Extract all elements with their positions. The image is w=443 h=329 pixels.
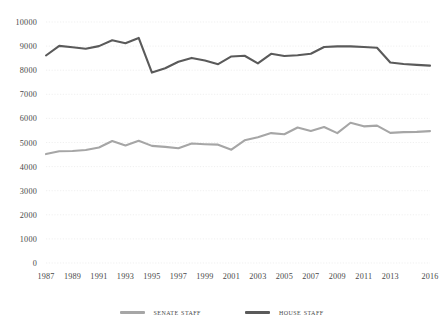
legend-label-house-staff: House Staff [279, 308, 324, 317]
y-tick-label: 9000 [20, 42, 37, 51]
x-tick-label: 2007 [302, 272, 319, 281]
x-tick-label: 1987 [37, 272, 54, 281]
legend-item-senate-staff[interactable]: Senate Staff [120, 308, 201, 317]
y-tick-label: 1000 [20, 235, 37, 244]
x-tick-label: 1989 [64, 272, 81, 281]
x-tick-label: 2016 [421, 272, 438, 281]
line-chart-svg: 1000090008000700060005000400030002000100… [0, 0, 443, 290]
series-line-house-staff [46, 38, 430, 73]
legend-swatch-house-staff [245, 311, 270, 314]
legend-swatch-senate-staff [120, 311, 145, 314]
x-axis-tick-labels: 1987198919911993199519971999200120032005… [37, 272, 438, 281]
series-lines [46, 38, 430, 154]
chart-container: 1000090008000700060005000400030002000100… [0, 0, 443, 329]
x-tick-label: 2011 [355, 272, 372, 281]
chart-legend: Senate Staff House Staff [0, 296, 443, 329]
y-tick-label: 7000 [20, 90, 37, 99]
x-tick-label: 2013 [382, 272, 399, 281]
x-tick-label: 2009 [329, 272, 346, 281]
y-tick-label: 6000 [20, 114, 37, 123]
x-tick-label: 1991 [90, 272, 107, 281]
gridlines [46, 22, 430, 263]
x-tick-label: 1999 [196, 272, 213, 281]
y-tick-label: 2000 [20, 211, 37, 220]
series-line-senate-staff [46, 123, 430, 154]
x-tick-label: 1995 [143, 272, 160, 281]
x-tick-label: 1993 [117, 272, 134, 281]
y-tick-label: 3000 [20, 187, 37, 196]
x-tick-label: 2005 [276, 272, 293, 281]
plot-area: 1000090008000700060005000400030002000100… [0, 0, 443, 290]
x-tick-label: 2003 [249, 272, 266, 281]
legend-label-senate-staff: Senate Staff [154, 308, 201, 317]
y-tick-label: 0 [33, 259, 37, 268]
y-tick-label: 4000 [20, 163, 37, 172]
legend-item-house-staff[interactable]: House Staff [245, 308, 324, 317]
x-tick-label: 1997 [170, 272, 187, 281]
y-tick-label: 10000 [16, 18, 37, 27]
y-tick-label: 8000 [20, 66, 37, 75]
x-tick-label: 2001 [223, 272, 240, 281]
y-axis-tick-labels: 1000090008000700060005000400030002000100… [16, 18, 37, 268]
y-tick-label: 5000 [20, 139, 37, 148]
